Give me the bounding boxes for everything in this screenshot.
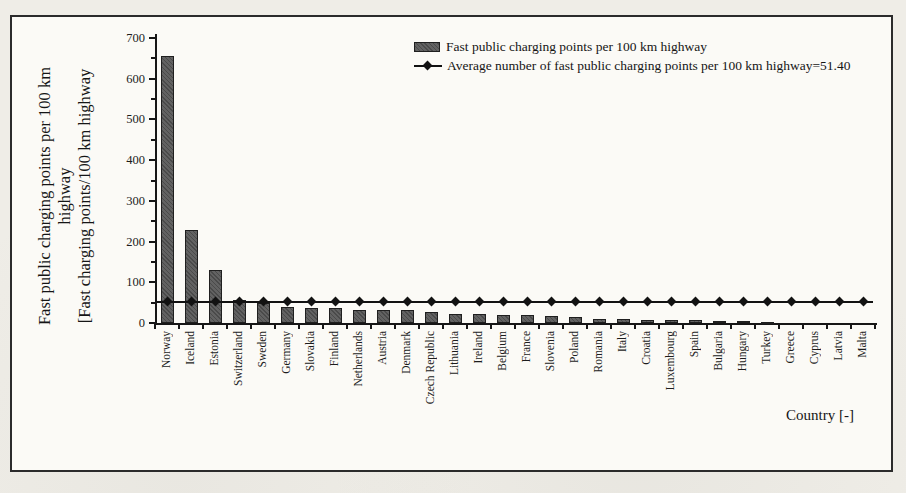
bar [761, 322, 774, 324]
x-tick-label: Sweden [256, 331, 269, 367]
x-axis-tick [274, 323, 276, 329]
x-tick-label: Hungary [736, 331, 749, 371]
x-axis-tick [610, 323, 612, 329]
average-marker-diamond [498, 297, 508, 307]
x-axis-tick [442, 323, 444, 329]
x-axis-tick [418, 323, 420, 329]
x-tick-label: Spain [688, 331, 701, 357]
bar [713, 321, 726, 323]
x-axis-tick [226, 323, 228, 329]
x-tick-label: Turkey [760, 331, 773, 364]
bar [569, 317, 582, 323]
x-tick-label: Czech Republic [424, 331, 437, 404]
average-marker-diamond [762, 297, 772, 307]
x-tick-label: Norway [160, 331, 173, 368]
y-axis-major-tick [149, 78, 157, 80]
x-axis-tick [154, 323, 156, 329]
bar [665, 320, 678, 323]
bar [689, 320, 702, 323]
y-axis-title-line2: highway [55, 168, 74, 225]
bar [449, 314, 462, 323]
x-tick-label: Greece [784, 331, 797, 364]
y-tick-label: 700 [111, 32, 145, 44]
x-tick-label: Iceland [184, 331, 197, 365]
x-tick-label: Romania [592, 331, 605, 373]
x-axis-tick [346, 323, 348, 329]
x-tick-label: France [520, 331, 533, 362]
y-axis-title-line3: [Fast charging points/100 km highway [75, 69, 94, 324]
bar [401, 310, 414, 323]
bar [641, 320, 654, 323]
bar [185, 230, 198, 323]
x-tick-label: Cyprus [808, 331, 821, 364]
average-marker-diamond [834, 297, 844, 307]
x-axis-tick [586, 323, 588, 329]
bar [353, 310, 366, 323]
y-axis-major-tick [149, 118, 157, 120]
bar [281, 307, 294, 323]
x-axis-tick [754, 323, 756, 329]
x-tick-label: Ireland [472, 331, 485, 364]
y-tick-label: 600 [111, 73, 145, 85]
x-axis-tick [826, 323, 828, 329]
x-tick-label: Switzerland [232, 331, 245, 386]
x-axis-tick [658, 323, 660, 329]
x-axis-tick [538, 323, 540, 329]
x-axis-tick [778, 323, 780, 329]
average-marker-diamond [714, 297, 724, 307]
average-marker-diamond [690, 297, 700, 307]
x-tick-label: Poland [568, 331, 581, 363]
average-marker-diamond [546, 297, 556, 307]
average-marker-diamond [426, 297, 436, 307]
average-marker-diamond [282, 297, 292, 307]
average-marker-diamond [522, 297, 532, 307]
bar [497, 315, 510, 323]
x-tick-label: Estonia [208, 331, 221, 366]
bar [305, 308, 318, 323]
legend: Fast public charging points per 100 km h… [414, 39, 850, 77]
y-tick-label: 200 [111, 236, 145, 248]
average-marker-diamond [402, 297, 412, 307]
y-tick-label: 100 [111, 276, 145, 288]
x-axis-tick [370, 323, 372, 329]
chart-panel: Fast public charging points per 100 km h… [10, 15, 893, 472]
legend-label-bars: Fast public charging points per 100 km h… [446, 39, 707, 55]
y-axis-major-tick [149, 159, 157, 161]
x-axis-tick [202, 323, 204, 329]
x-axis-tick [682, 323, 684, 329]
x-tick-label: Luxembourg [664, 331, 677, 390]
legend-item-bars: Fast public charging points per 100 km h… [414, 39, 850, 54]
bar-swatch-icon [414, 42, 440, 52]
x-axis-title: Country [-] [740, 407, 900, 424]
x-axis-tick [394, 323, 396, 329]
y-axis-minor-tick [151, 220, 156, 222]
y-axis-minor-tick [151, 98, 156, 100]
average-marker-diamond [594, 297, 604, 307]
x-tick-label: Netherlands [352, 331, 365, 387]
x-axis-tick [874, 323, 876, 329]
average-marker-diamond [378, 297, 388, 307]
average-marker-diamond [330, 297, 340, 307]
x-tick-label: Croatia [640, 331, 653, 365]
line-diamond-swatch-icon [414, 61, 442, 71]
x-tick-label: Slovenia [544, 331, 557, 371]
bar [737, 321, 750, 323]
average-marker-diamond [810, 297, 820, 307]
average-marker-diamond [618, 297, 628, 307]
bar [377, 310, 390, 323]
bar [161, 56, 174, 323]
average-marker-diamond [450, 297, 460, 307]
y-axis-title-line1: Fast public charging points per 100 km [35, 67, 54, 325]
x-tick-label: Latvia [832, 331, 845, 360]
x-axis-tick [490, 323, 492, 329]
x-tick-label: Slovakia [304, 331, 317, 371]
y-axis-major-tick [149, 200, 157, 202]
x-tick-label: Finland [328, 331, 341, 366]
bar [473, 314, 486, 323]
x-axis-tick [322, 323, 324, 329]
average-marker-diamond [642, 297, 652, 307]
scanned-figure-page: Fast public charging points per 100 km h… [0, 0, 906, 493]
y-axis-title: Fast public charging points per 100 km h… [35, 10, 97, 382]
bar [521, 315, 534, 323]
x-tick-label: Germany [280, 331, 293, 374]
